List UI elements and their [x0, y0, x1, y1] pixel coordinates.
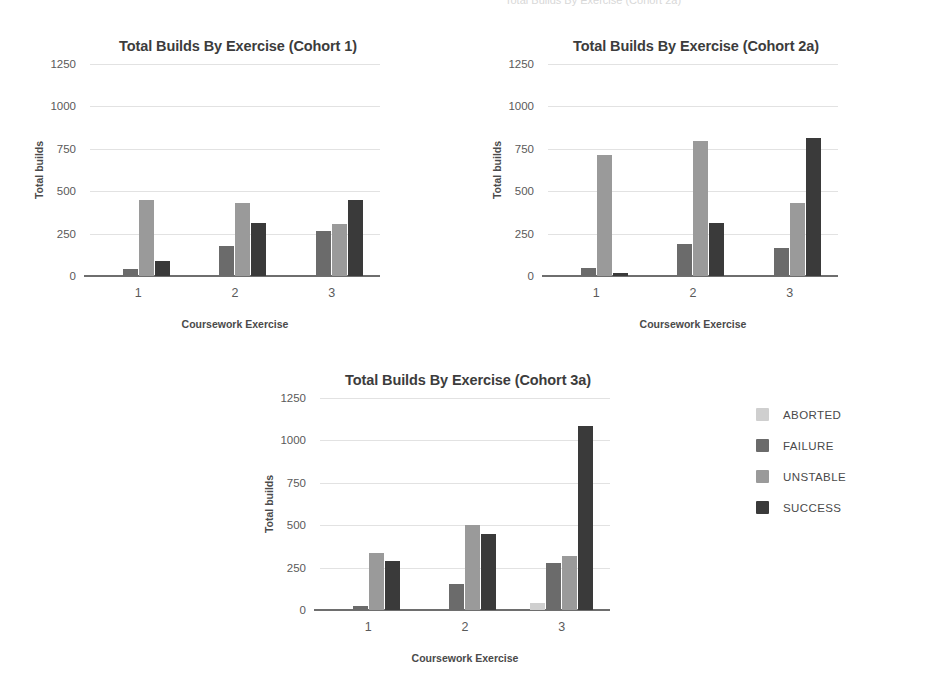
bar-unstable[interactable] — [562, 556, 577, 610]
legend-swatch-success-icon — [756, 501, 769, 514]
legend-swatch-unstable-icon — [756, 470, 769, 483]
y-axis-tick-label: 750 — [248, 477, 306, 489]
x-axis-tick-label: 1 — [593, 286, 600, 300]
x-axis-tick-label: 2 — [462, 620, 469, 634]
bar-success[interactable] — [613, 273, 628, 276]
bar-success[interactable] — [806, 138, 821, 276]
bar-success[interactable] — [709, 223, 724, 276]
bar-failure[interactable] — [316, 231, 331, 276]
chart-panel-cohort-2a: Total Builds By Exercise (Cohort 2a) Tot… — [476, 38, 916, 348]
y-axis-tick-label: 0 — [476, 270, 534, 282]
x-axis-tick-label: 3 — [328, 286, 335, 300]
bar-group — [320, 398, 417, 610]
plot-wrap: Total builds025050075010001250123Coursew… — [476, 64, 858, 338]
bar-failure[interactable] — [774, 248, 789, 276]
bar-group — [513, 398, 610, 610]
chart-panel-cohort-1: Total Builds By Exercise (Cohort 1) Tota… — [18, 38, 458, 348]
bar-failure[interactable] — [123, 269, 138, 276]
x-axis-tick-label: 1 — [365, 620, 372, 634]
legend-item[interactable]: ABORTED — [756, 408, 846, 421]
x-axis-tick-label: 2 — [232, 286, 239, 300]
bar-success[interactable] — [155, 261, 170, 276]
bar-failure[interactable] — [449, 584, 464, 610]
bar-group — [645, 64, 742, 276]
bar-failure[interactable] — [677, 244, 692, 276]
y-axis-tick-label: 0 — [18, 270, 76, 282]
bar-unstable[interactable] — [790, 203, 805, 276]
bar-unstable[interactable] — [332, 224, 347, 276]
bar-failure[interactable] — [219, 246, 234, 276]
bar-unstable[interactable] — [693, 141, 708, 276]
bar-success[interactable] — [251, 223, 266, 276]
legend-item[interactable]: UNSTABLE — [756, 470, 846, 483]
chart-title: Total Builds By Exercise (Cohort 2a) — [476, 38, 916, 54]
bar-unstable[interactable] — [369, 553, 384, 610]
x-axis-label: Coursework Exercise — [548, 318, 838, 330]
plot-area — [90, 64, 380, 276]
y-axis-tick-label: 1000 — [18, 100, 76, 112]
bar-success[interactable] — [578, 426, 593, 610]
y-axis-tick-label: 750 — [476, 143, 534, 155]
y-axis-tick-label: 1000 — [476, 100, 534, 112]
bar-group — [187, 64, 284, 276]
y-axis-tick-label: 500 — [18, 185, 76, 197]
legend: ABORTED FAILURE UNSTABLE SUCCESS — [756, 408, 846, 514]
legend-label: ABORTED — [783, 409, 841, 421]
y-axis-tick-label: 1250 — [476, 58, 534, 70]
y-axis-tick-label: 500 — [476, 185, 534, 197]
y-axis-tick-label: 250 — [476, 228, 534, 240]
legend-label: SUCCESS — [783, 502, 841, 514]
y-axis-tick-label: 750 — [18, 143, 76, 155]
bar-success[interactable] — [348, 200, 363, 276]
plot-area — [548, 64, 838, 276]
x-axis-tick-label: 1 — [135, 286, 142, 300]
bar-group — [283, 64, 380, 276]
y-axis-tick-label: 1000 — [248, 434, 306, 446]
y-axis-tick-label: 1250 — [18, 58, 76, 70]
legend-swatch-failure-icon — [756, 439, 769, 452]
x-axis-tick-label: 3 — [558, 620, 565, 634]
y-axis-tick-label: 1250 — [248, 392, 306, 404]
x-axis-tick-label: 2 — [690, 286, 697, 300]
bar-unstable[interactable] — [597, 155, 612, 276]
plot-wrap: Total builds025050075010001250123Coursew… — [18, 64, 400, 338]
bar-success[interactable] — [385, 561, 400, 610]
figure-canvas: Total Builds By Exercise (Cohort 2a) Tot… — [0, 0, 934, 694]
bar-failure[interactable] — [353, 606, 368, 610]
y-axis-tick-label: 0 — [248, 604, 306, 616]
bar-aborted[interactable] — [530, 603, 545, 610]
bar-failure[interactable] — [581, 268, 596, 276]
bar-group — [417, 398, 514, 610]
x-axis-tick-label: 3 — [786, 286, 793, 300]
legend-label: UNSTABLE — [783, 471, 846, 483]
chart-panel-cohort-3a: Total Builds By Exercise (Cohort 3a) Tot… — [248, 372, 688, 682]
x-axis-label: Coursework Exercise — [320, 652, 610, 664]
bar-unstable[interactable] — [235, 203, 250, 276]
y-axis-tick-label: 500 — [248, 519, 306, 531]
legend-swatch-aborted-icon — [756, 408, 769, 421]
bar-failure[interactable] — [546, 563, 561, 610]
bar-group — [90, 64, 187, 276]
plot-area — [320, 398, 610, 610]
plot-wrap: Total builds025050075010001250123Coursew… — [248, 398, 630, 672]
legend-label: FAILURE — [783, 440, 834, 452]
chart-title: Total Builds By Exercise (Cohort 3a) — [248, 372, 688, 388]
y-axis-tick-label: 250 — [248, 562, 306, 574]
legend-item[interactable]: FAILURE — [756, 439, 846, 452]
y-axis-tick-label: 250 — [18, 228, 76, 240]
x-axis-label: Coursework Exercise — [90, 318, 380, 330]
scan-edge-artifact: Total Builds By Exercise (Cohort 2a) — [505, 0, 681, 6]
bar-unstable[interactable] — [465, 525, 480, 610]
bar-unstable[interactable] — [139, 200, 154, 276]
legend-item[interactable]: SUCCESS — [756, 501, 846, 514]
bar-group — [741, 64, 838, 276]
chart-title: Total Builds By Exercise (Cohort 1) — [18, 38, 458, 54]
bar-success[interactable] — [481, 534, 496, 610]
bar-group — [548, 64, 645, 276]
